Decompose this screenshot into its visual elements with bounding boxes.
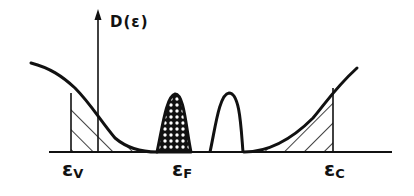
- valence-edge-subscript: V: [73, 166, 83, 181]
- conduction-edge-subscript: C: [335, 166, 345, 181]
- axis-arrow-icon: [95, 9, 102, 20]
- fermi-level-subscript: F: [183, 166, 192, 181]
- conduction-hatch-region: [240, 80, 340, 160]
- conduction-edge-label: εC: [324, 157, 345, 181]
- dos-axis-label: D(ε): [110, 13, 149, 31]
- empty-impurity-peak: [210, 93, 243, 152]
- occupied-impurity-peak: [157, 94, 191, 152]
- fermi-level-label: εF: [172, 157, 192, 181]
- valence-hatch-region: [60, 80, 170, 160]
- valence-edge-symbol: ε: [62, 157, 73, 181]
- fermi-level-symbol: ε: [172, 157, 183, 181]
- conduction-edge-symbol: ε: [324, 157, 335, 181]
- valence-edge-label: εV: [62, 157, 83, 181]
